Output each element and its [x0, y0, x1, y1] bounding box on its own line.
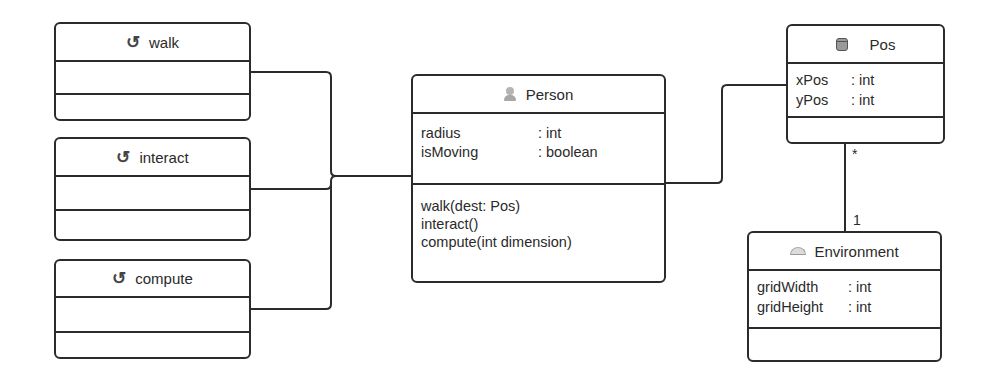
- environment-attribute-row: gridWidth : int: [757, 277, 932, 297]
- walk-attributes-section: [56, 62, 249, 95]
- environment-multiplicity-label: 1: [853, 212, 861, 228]
- pos-attribute-row: xPos : int: [796, 70, 935, 90]
- pos-multiplicity-label: *: [852, 146, 857, 162]
- walk-interface-header: ↺ walk: [56, 24, 249, 62]
- attribute-name: xPos: [796, 70, 851, 90]
- interact-interface-name: interact: [139, 149, 188, 166]
- attribute-type: : int: [851, 70, 874, 90]
- attribute-name: yPos: [796, 90, 851, 110]
- pos-class-name: Pos: [870, 36, 896, 53]
- pos-attribute-row: yPos : int: [796, 90, 935, 110]
- compute-interface-header: ↺ compute: [56, 261, 249, 298]
- person-attributes-section: radius : int isMoving : boolean: [413, 114, 664, 185]
- walk-operations-section: [56, 95, 249, 119]
- compute-operations-section: [56, 333, 249, 357]
- attribute-type: : int: [851, 90, 874, 110]
- interact-operations-section: [56, 211, 249, 239]
- attribute-name: gridWidth: [757, 277, 848, 297]
- environment-class-box[interactable]: Environment gridWidth : int gridHeight :…: [747, 231, 942, 362]
- person-class-header: Person: [413, 76, 664, 114]
- dome-icon: [790, 247, 806, 255]
- interact-interface-box[interactable]: ↺ interact: [54, 137, 251, 241]
- interact-interface-header: ↺ interact: [56, 139, 249, 177]
- interface-icon: ↺: [116, 151, 129, 164]
- person-class-name: Person: [526, 86, 574, 103]
- compute-interface-box[interactable]: ↺ compute: [54, 259, 251, 359]
- attribute-name: radius: [421, 124, 538, 143]
- environment-attributes-section: gridWidth : int gridHeight : int: [749, 271, 940, 329]
- attribute-name: isMoving: [421, 143, 538, 162]
- person-operation: compute(int dimension): [421, 233, 656, 251]
- pos-operations-section: [788, 118, 943, 142]
- person-operations-section: walk(dest: Pos) interact() compute(int d…: [413, 185, 664, 281]
- attribute-type: : boolean: [538, 143, 598, 162]
- attribute-type: : int: [848, 277, 871, 297]
- person-icon: [504, 87, 516, 101]
- attribute-type: : int: [538, 124, 561, 143]
- person-class-box[interactable]: Person radius : int isMoving : boolean w…: [411, 74, 666, 283]
- person-attribute-row: radius : int: [421, 124, 656, 143]
- attribute-name: gridHeight: [757, 297, 848, 317]
- interface-icon: ↺: [112, 272, 125, 285]
- interact-attributes-section: [56, 177, 249, 211]
- environment-class-header: Environment: [749, 233, 940, 271]
- walk-interface-name: walk: [149, 34, 179, 51]
- interact-association-line: [250, 181, 331, 189]
- environment-operations-section: [749, 329, 940, 360]
- environment-attribute-row: gridHeight : int: [757, 297, 932, 317]
- pos-class-header: Pos: [788, 26, 943, 64]
- attribute-type: : int: [848, 297, 871, 317]
- interface-icon: ↺: [126, 36, 139, 49]
- compute-interface-name: compute: [135, 270, 193, 287]
- environment-class-name: Environment: [814, 243, 898, 260]
- walk-association-line: [250, 72, 411, 176]
- pos-attributes-section: xPos : int yPos : int: [788, 64, 943, 118]
- person-operation: interact(): [421, 215, 656, 233]
- person-operation: walk(dest: Pos): [421, 197, 656, 215]
- walk-interface-box[interactable]: ↺ walk: [54, 22, 251, 121]
- uml-diagram-canvas: ↺ walk ↺ interact ↺ compute Person: [0, 0, 1000, 388]
- person-pos-association-line: [665, 85, 786, 183]
- database-icon: [836, 38, 848, 51]
- pos-class-box[interactable]: Pos xPos : int yPos : int: [786, 24, 945, 144]
- compute-attributes-section: [56, 298, 249, 333]
- person-attribute-row: isMoving : boolean: [421, 143, 656, 162]
- compute-association-line: [250, 176, 336, 309]
